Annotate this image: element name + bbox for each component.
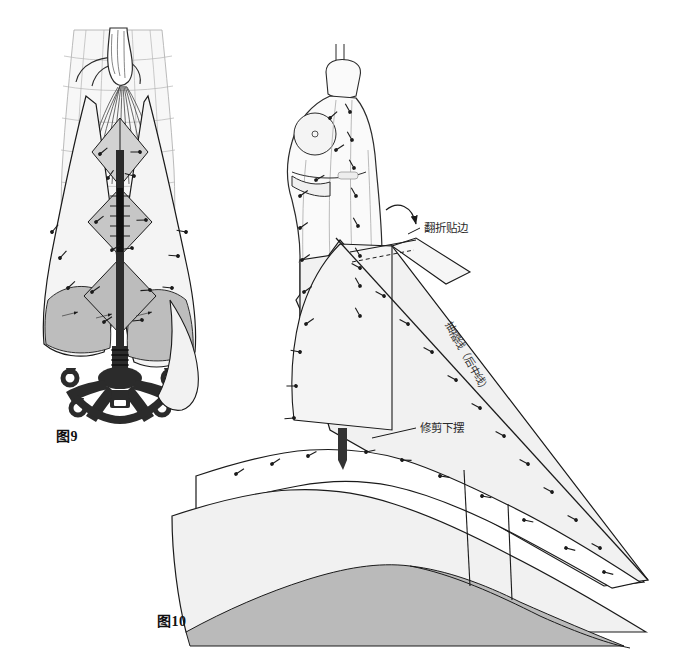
illustration-sheet: 图9 图10 翻折贴边 修剪下摆 抽褶线（后中线） — [0, 0, 686, 659]
illustration-canvas — [0, 0, 686, 659]
figure-9-group — [43, 28, 198, 422]
figure-10-group — [172, 44, 648, 648]
fig10-facing-arrow — [386, 205, 416, 224]
figure-9-caption: 图9 — [56, 425, 78, 445]
fig10-facing-leader — [408, 228, 420, 234]
label-trim-hem: 修剪下摆 — [420, 419, 464, 435]
figure-10-caption: 图10 — [157, 610, 187, 630]
label-fold-facing: 翻折贴边 — [424, 219, 468, 235]
